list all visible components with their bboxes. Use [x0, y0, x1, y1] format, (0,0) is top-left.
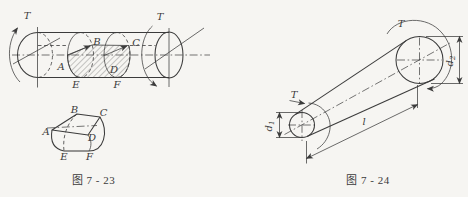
torque-label-right: T [157, 11, 165, 22]
cone-bottom-edge [307, 79, 435, 136]
element-label-E: E [59, 151, 68, 162]
element-centerline [47, 126, 97, 129]
torque-arrow-small-end [290, 101, 305, 104]
dim-label-d2: d2 [444, 55, 458, 66]
cone-axis-centerline [285, 43, 451, 135]
point-label-A: A [56, 61, 64, 72]
left-end-radius-line [13, 38, 60, 64]
point-label-C: C [132, 37, 140, 48]
l-dimension-line [307, 105, 418, 159]
figures-canvas: T T A B C D E F A B C D E F 图 7 - 23 [0, 0, 468, 197]
point-label-E: E [71, 79, 80, 90]
point-label-F: F [113, 79, 122, 90]
caption-figure-7-24: 图 7 - 24 [346, 174, 389, 186]
dim-label-l: l [362, 116, 365, 127]
figure-7-24: d1 d2 l T T 图 7 - 24 [263, 18, 464, 186]
textbook-figure-panel: T T A B C D E F A B C D E F 图 7 - 23 [0, 0, 468, 197]
torque-arc-small-end [309, 103, 331, 149]
point-label-D: D [109, 64, 118, 75]
caption-figure-7-23: 图 7 - 23 [72, 174, 115, 186]
torque-label-left: T [24, 10, 32, 21]
dim-label-d1: d1 [263, 121, 277, 132]
element-label-F: F [85, 151, 94, 162]
point-label-B: B [92, 36, 100, 47]
element-left-arc [52, 130, 65, 151]
hatch-region [68, 45, 131, 78]
torque-label-large-end: T [398, 18, 406, 29]
figure-7-23: T T A B C D E F A B C D E F 图 7 - 23 [9, 10, 210, 186]
element-detail-view: A B C D E F [41, 104, 107, 162]
element-label-C: C [100, 107, 108, 118]
element-label-D: D [87, 132, 96, 143]
element-label-B: B [70, 104, 78, 115]
torque-label-small-end: T [291, 89, 299, 100]
element-label-A: A [41, 126, 49, 137]
